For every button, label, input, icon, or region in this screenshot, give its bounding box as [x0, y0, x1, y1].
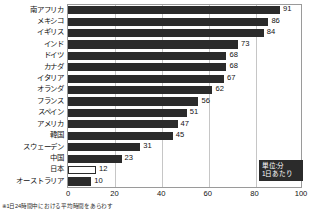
bar-row: アメリカ47: [0, 120, 320, 130]
x-tick-0: 0: [66, 189, 70, 199]
category-label-スペイン: スペイン: [0, 107, 64, 117]
bar-row: イタリア67: [0, 74, 320, 84]
bar-value-フランス: 56: [201, 96, 209, 106]
category-label-イギリス: イギリス: [0, 27, 64, 37]
bar-row: 韓国45: [0, 131, 320, 141]
bar-スウェーデン: [68, 143, 140, 151]
bar-row: カナダ68: [0, 63, 320, 73]
bar-value-韓国: 45: [176, 130, 184, 140]
bar-フランス: [68, 97, 198, 105]
x-tick-20: 20: [110, 189, 118, 199]
footnote: ※1日24時間中における平均時間をあらわす: [2, 203, 113, 210]
category-label-南アフリカ: 南アフリカ: [0, 5, 64, 15]
bar-value-イギリス: 84: [267, 27, 275, 37]
category-label-フランス: フランス: [0, 96, 64, 106]
category-label-イタリア: イタリア: [0, 73, 64, 83]
category-label-スウェーデン: スウェーデン: [0, 142, 64, 152]
category-label-日本: 日本: [0, 164, 64, 174]
bar-アメリカ: [68, 120, 178, 128]
legend-box: 単位:分 1日あたり: [259, 160, 303, 181]
bar-row: 南アフリカ91: [0, 6, 320, 16]
bar-日本: [68, 166, 96, 174]
bar-イギリス: [68, 29, 264, 37]
bar-row: フランス56: [0, 97, 320, 107]
bar-row: イギリス84: [0, 28, 320, 38]
bar-value-ドイツ: 68: [229, 50, 237, 60]
category-label-ドイツ: ドイツ: [0, 50, 64, 60]
category-label-韓国: 韓国: [0, 130, 64, 140]
bar-value-スペイン: 51: [190, 107, 198, 117]
bar-value-オーストラリア: 10: [94, 176, 102, 186]
bar-メキシコ: [68, 18, 268, 26]
bar-イタリア: [68, 75, 224, 83]
bar-chart: 南アフリカ91メキシコ86イギリス84インド73ドイツ68カナダ68イタリア67…: [0, 0, 320, 212]
bar-value-イタリア: 67: [227, 73, 235, 83]
bar-value-中国: 23: [125, 153, 133, 163]
bar-カナダ: [68, 63, 226, 71]
x-tick-60: 60: [204, 189, 212, 199]
category-label-オランダ: オランダ: [0, 84, 64, 94]
bar-中国: [68, 155, 122, 163]
category-label-インド: インド: [0, 39, 64, 49]
bar-row: インド73: [0, 40, 320, 50]
category-label-カナダ: カナダ: [0, 62, 64, 72]
bar-value-インド: 73: [241, 39, 249, 49]
bar-row: メキシコ86: [0, 17, 320, 27]
bar-スペイン: [68, 109, 187, 117]
bar-インド: [68, 40, 238, 48]
bar-value-オランダ: 62: [215, 84, 223, 94]
bar-row: ドイツ68: [0, 51, 320, 61]
bar-オーストラリア: [68, 177, 91, 185]
legend-period-label: 1日あたり: [262, 170, 300, 178]
bar-value-南アフリカ: 91: [283, 4, 291, 14]
bar-オランダ: [68, 86, 212, 94]
x-tick-80: 80: [250, 189, 258, 199]
bar-南アフリカ: [68, 6, 280, 14]
category-label-オーストラリア: オーストラリア: [0, 176, 64, 186]
bar-韓国: [68, 132, 173, 140]
bar-row: スペイン51: [0, 108, 320, 118]
bar-value-メキシコ: 86: [271, 16, 279, 26]
bar-value-スウェーデン: 31: [143, 141, 151, 151]
bar-value-日本: 12: [99, 164, 107, 174]
x-tick-40: 40: [157, 189, 165, 199]
category-label-メキシコ: メキシコ: [0, 16, 64, 26]
category-label-アメリカ: アメリカ: [0, 119, 64, 129]
x-axis-ticks: 020406080100: [0, 189, 320, 201]
bar-value-アメリカ: 47: [181, 119, 189, 129]
x-tick-100: 100: [295, 189, 308, 199]
bar-ドイツ: [68, 52, 226, 60]
legend-unit-label: 単位:分: [262, 162, 300, 170]
bar-row: オランダ62: [0, 85, 320, 95]
category-label-中国: 中国: [0, 153, 64, 163]
bar-row: スウェーデン31: [0, 143, 320, 153]
bar-value-カナダ: 68: [229, 61, 237, 71]
